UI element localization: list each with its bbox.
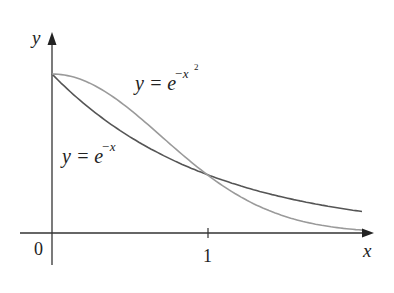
annotation-exponential: y = e −x: [60, 139, 116, 168]
annotation-gaussian: y = e −x 2: [133, 62, 199, 95]
annotation-exponential-base: y = e: [60, 145, 103, 168]
annotation-gaussian-exponent: −x: [174, 66, 189, 81]
curve-exp-neg-x: [52, 74, 362, 212]
y-axis-arrow-icon: [48, 32, 57, 45]
x-axis-label: x: [362, 240, 372, 261]
chart: y x 0 1 y = e −x 2 y = e −x: [0, 0, 394, 293]
annotation-gaussian-exponent-power: 2: [194, 62, 199, 72]
x-axis-arrow-icon: [362, 229, 374, 238]
y-axis-label: y: [30, 27, 41, 48]
annotation-gaussian-base: y = e: [133, 72, 176, 95]
annotation-exponential-exponent: −x: [101, 139, 116, 154]
origin-label: 0: [34, 239, 43, 259]
tick-label-1: 1: [203, 246, 212, 266]
